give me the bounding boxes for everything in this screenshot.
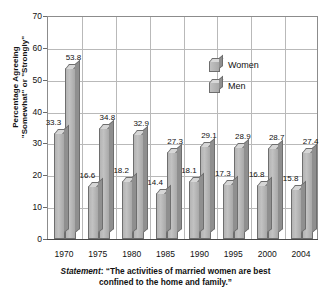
vertical-gridline [251, 17, 252, 239]
bar-women-1985 [156, 193, 167, 239]
vertical-gridline [82, 17, 83, 239]
data-label: 17.3 [212, 169, 234, 178]
bar-women-1980 [122, 181, 133, 239]
data-label: 27.3 [164, 137, 186, 146]
bar-side-face [312, 144, 317, 233]
bar-side-face [267, 177, 272, 233]
x-tick-label: 2004 [281, 249, 321, 259]
y-tick-label: 0 [20, 234, 42, 244]
y-tick-label: 60 [20, 43, 42, 53]
data-label: 28.7 [266, 133, 288, 142]
plot-area: Women Men [47, 16, 318, 239]
bar-chart: Percentage Agreeing "Somewhat" or "Stron… [0, 0, 331, 299]
legend-cube-icon [209, 61, 220, 72]
bar-women-1995 [223, 184, 234, 239]
vertical-gridline [184, 17, 185, 239]
data-label: 33.3 [42, 118, 64, 127]
gridline [48, 81, 317, 82]
data-label: 27.4 [300, 137, 322, 146]
y-tick-label: 10 [20, 202, 42, 212]
x-axis-baseline [47, 239, 318, 240]
bar-side-face [210, 138, 215, 233]
data-label: 34.8 [96, 113, 118, 122]
caption-line-1: “The activities of married women are bes… [106, 266, 271, 276]
bar-side-face [143, 126, 148, 233]
data-label: 28.9 [232, 132, 254, 141]
bar-women-1990 [189, 181, 200, 239]
gridline [48, 113, 317, 114]
legend: Women Men [209, 55, 259, 97]
bar-side-face [233, 176, 238, 233]
vertical-gridline [116, 17, 117, 239]
bar-side-face [244, 139, 249, 233]
bar-side-face [177, 144, 182, 233]
bar-women-2000 [257, 185, 268, 239]
bar-women-2004 [291, 189, 302, 239]
bar-women-1975 [88, 186, 99, 239]
gridline [48, 49, 317, 50]
vertical-gridline [285, 17, 286, 239]
bar-side-face [166, 185, 171, 233]
y-tick-label: 70 [20, 11, 42, 21]
legend-item-women: Women [209, 55, 259, 74]
bar-side-face [64, 125, 69, 233]
bar-women-1970 [54, 133, 65, 239]
bar-side-face [278, 139, 283, 233]
bar-side-face [98, 178, 103, 233]
bar-side-face [132, 173, 137, 233]
bar-side-face [199, 173, 204, 233]
y-tick-label: 40 [20, 107, 42, 117]
bar-side-face [75, 59, 80, 233]
caption-prefix: Statement [61, 266, 101, 276]
legend-label-men: Men [228, 81, 246, 91]
legend-label-women: Women [228, 60, 259, 70]
legend-item-men: Men [209, 76, 259, 95]
chart-caption: Statement: “The activities of married wo… [0, 266, 331, 288]
bar-side-face [301, 180, 306, 233]
y-tick-label: 30 [20, 138, 42, 148]
bar-side-face [109, 120, 114, 233]
data-label: 32.9 [130, 119, 152, 128]
legend-cube-icon [209, 82, 220, 93]
data-label: 53.8 [62, 53, 84, 62]
y-tick-label: 50 [20, 75, 42, 85]
vertical-gridline [217, 17, 218, 239]
data-label: 29.1 [198, 131, 220, 140]
caption-line-2: confined to the home and family.” [99, 277, 232, 287]
y-tick-label: 20 [20, 170, 42, 180]
y-axis-label-line-1: Percentage Agreeing [11, 46, 21, 128]
